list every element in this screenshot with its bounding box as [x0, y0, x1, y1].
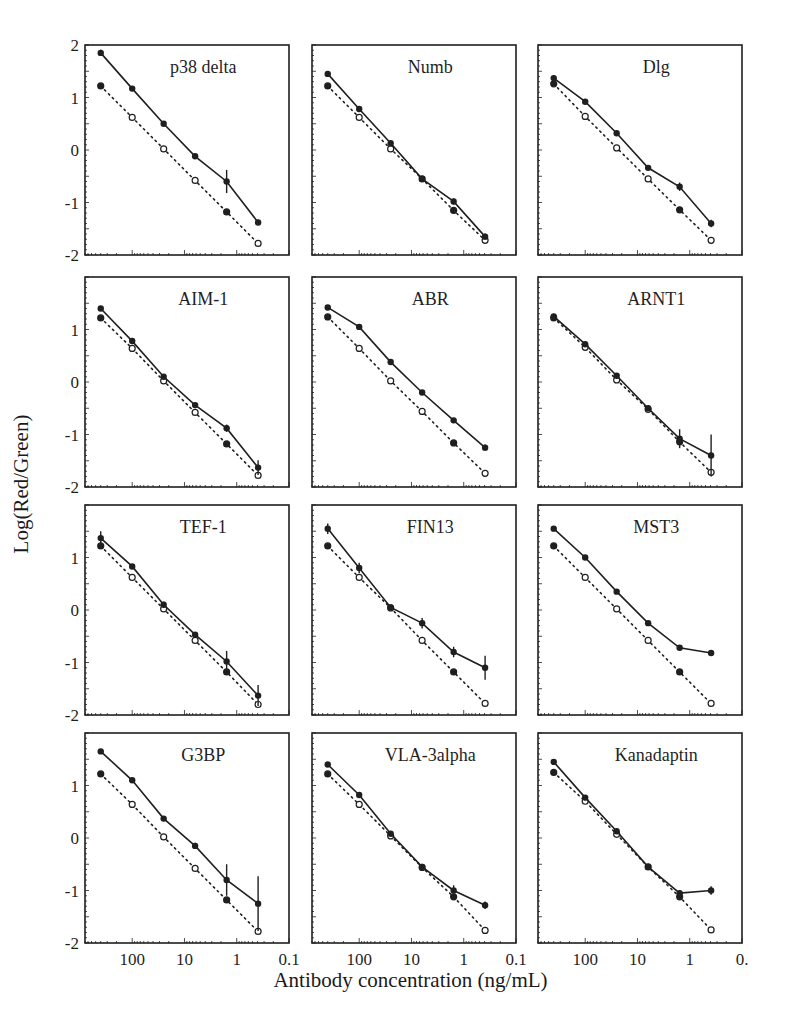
reference-point [708, 237, 714, 243]
x-tick-label: 0.1 [505, 950, 526, 969]
x-axis-label: Antibody concentration (ng/mL) [0, 968, 791, 993]
measured-point [482, 902, 488, 908]
reference-point [419, 408, 425, 414]
measured-point [450, 887, 456, 893]
measured-series-line [328, 74, 485, 237]
measured-point [582, 794, 588, 800]
reference-point [582, 574, 588, 580]
y-tick-label: 2 [71, 36, 80, 55]
y-tick-label: -1 [65, 426, 79, 445]
reference-point [582, 113, 588, 119]
reference-point [356, 114, 362, 120]
measured-point [356, 792, 362, 798]
measured-point [98, 50, 104, 56]
measured-point [387, 831, 393, 837]
y-tick-label: 1 [71, 777, 80, 796]
measured-point [551, 525, 557, 531]
x-tick-label: 100 [346, 950, 372, 969]
measured-point [356, 324, 362, 330]
reference-point [255, 240, 261, 246]
panel-title: AIM-1 [178, 289, 228, 309]
reference-point [614, 606, 620, 612]
reference-point [224, 441, 230, 447]
panel-title: Dlg [643, 57, 670, 77]
measured-point [129, 85, 135, 91]
measured-point [192, 402, 198, 408]
reference-series-line [101, 318, 258, 476]
reference-point [451, 669, 457, 675]
reference-series-line [554, 772, 711, 930]
measured-point [613, 588, 619, 594]
measured-point [160, 121, 166, 127]
reference-point [98, 83, 104, 89]
measured-point [223, 178, 229, 184]
y-tick-label: 0 [71, 829, 80, 848]
measured-point [450, 198, 456, 204]
y-tick-label: -2 [65, 934, 79, 953]
measured-point [482, 444, 488, 450]
measured-point [613, 130, 619, 136]
measured-point [419, 864, 425, 870]
measured-point [708, 650, 714, 656]
reference-point [451, 440, 457, 446]
measured-point [708, 452, 714, 458]
reference-point [482, 700, 488, 706]
reference-series-line [328, 774, 485, 930]
measured-point [255, 900, 261, 906]
measured-point [356, 106, 362, 112]
reference-point [614, 145, 620, 151]
measured-point [613, 828, 619, 834]
x-tick-label: 0. [736, 950, 749, 969]
panel-title: G3BP [181, 745, 225, 765]
measured-point [645, 864, 651, 870]
measured-point [129, 563, 135, 569]
reference-point [192, 865, 198, 871]
reference-point [677, 207, 683, 213]
reference-point [325, 314, 331, 320]
reference-point [161, 834, 167, 840]
reference-point [645, 637, 651, 643]
measured-series-line [328, 529, 485, 668]
reference-series-line [101, 774, 258, 932]
measured-series-line [101, 53, 258, 223]
y-axis-label: Log(Red/Green) [9, 415, 34, 554]
measured-point [129, 777, 135, 783]
reference-series-line [328, 546, 485, 704]
measured-point [223, 658, 229, 664]
measured-point [356, 565, 362, 571]
measured-series-line [101, 751, 258, 903]
measured-series-line [554, 762, 711, 893]
panel-title: VLA-3alpha [385, 745, 476, 765]
reference-point [129, 345, 135, 351]
reference-point [388, 378, 394, 384]
x-tick-label: 1 [685, 950, 694, 969]
measured-series-line [328, 307, 485, 447]
reference-point [551, 769, 557, 775]
measured-point [419, 176, 425, 182]
reference-series-line [554, 318, 711, 472]
x-tick-label: 1 [232, 950, 241, 969]
measured-point [645, 405, 651, 411]
measured-point [582, 99, 588, 105]
measured-point [192, 843, 198, 849]
reference-point [451, 207, 457, 213]
y-tick-label: 0 [71, 601, 80, 620]
measured-point [160, 374, 166, 380]
y-tick-label: -1 [65, 654, 79, 673]
reference-point [482, 470, 488, 476]
reference-point [192, 177, 198, 183]
y-tick-label: 0 [71, 373, 80, 392]
measured-point [325, 761, 331, 767]
measured-series-line [101, 309, 258, 468]
x-tick-label: 10 [176, 950, 193, 969]
measured-point [582, 554, 588, 560]
measured-point [160, 815, 166, 821]
measured-point [325, 304, 331, 310]
reference-point [677, 669, 683, 675]
reference-point [224, 897, 230, 903]
x-tick-label: 100 [572, 950, 598, 969]
measured-point [551, 75, 557, 81]
measured-point [450, 417, 456, 423]
measured-point [708, 887, 714, 893]
measured-point [582, 341, 588, 347]
